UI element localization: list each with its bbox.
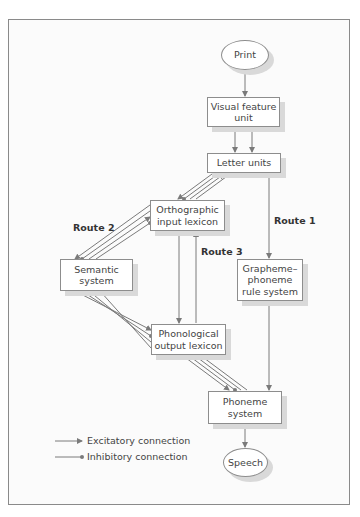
- orthographic-input-lexicon-node: Orthographic input lexicon: [150, 200, 225, 231]
- route-2-label: Route 2: [73, 222, 115, 233]
- route-3-label: Route 3: [201, 246, 243, 257]
- semantic-system-node: Semantic system: [60, 259, 133, 291]
- visual-feature-unit-node: Visual feature unit: [207, 97, 280, 127]
- phonological-output-lexicon-node: Phonological output lexicon: [151, 324, 226, 355]
- route-1-label: Route 1: [274, 215, 316, 226]
- legend-excitatory: Excitatory connection: [87, 435, 190, 446]
- grapheme-phoneme-rule-system-node: Grapheme–phoneme rule system: [237, 259, 303, 301]
- legend-inhibitory: Inhibitory connection: [87, 451, 188, 462]
- letter-units-node: Letter units: [207, 153, 281, 173]
- speech-node: Speech: [223, 448, 268, 477]
- phoneme-system-node: Phoneme system: [208, 391, 282, 424]
- print-node: Print: [221, 40, 269, 70]
